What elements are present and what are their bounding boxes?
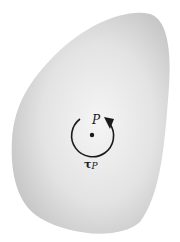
point-p-dot	[90, 133, 94, 137]
torque-symbol: τ	[84, 158, 91, 171]
diagram-canvas: P τP	[0, 0, 180, 242]
rigid-body	[12, 13, 170, 234]
diagram-svg: P τP	[0, 0, 180, 242]
point-p-label: P	[91, 113, 101, 127]
torque-subscript: P	[90, 161, 98, 171]
